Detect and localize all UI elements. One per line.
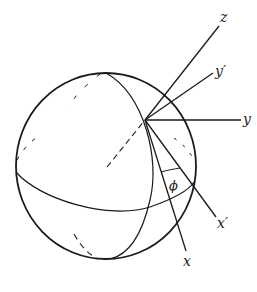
axis-x [145,120,186,251]
phi-angle-arc [161,168,180,172]
axis-z [145,26,219,120]
label-y-prime: y′ [214,63,227,79]
axis-x-prime [145,120,216,217]
label-x: x [183,253,191,269]
label-x-prime: x′ [217,215,229,231]
sphere-outline [16,73,196,259]
sphere-diagram: z y′ y x′ x ϕ [0,0,257,292]
meridian-front [106,73,153,259]
great-circle-hidden-right [174,138,194,160]
meridian-hidden-lower [74,234,98,259]
label-phi: ϕ [169,178,178,193]
radius-dashed [107,120,145,167]
label-z: z [219,9,228,25]
label-y: y [242,111,252,127]
